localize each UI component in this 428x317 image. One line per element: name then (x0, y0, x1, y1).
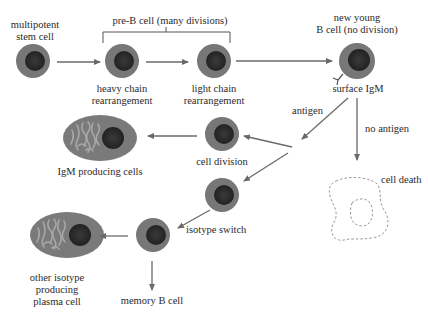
label-igm-producing-cells: IgM producing cells (55, 166, 145, 178)
label-memory-b-cell: memory B cell (117, 295, 187, 307)
pre-b-bracket (103, 27, 230, 43)
light-chain-cell (197, 44, 231, 78)
label-line: producing (22, 284, 92, 296)
igm-plasma-cell (63, 115, 137, 161)
label-no-antigen: no antigen (365, 123, 409, 135)
new-young-b-cell (333, 43, 375, 85)
label-line: heavy chain (82, 83, 162, 95)
label-heavy-chain: heavy chain rearrangement (82, 83, 162, 107)
label-line: rearrangement (174, 95, 254, 107)
isotype-switch-cell (205, 178, 239, 212)
label-line: new young (312, 12, 402, 24)
label-new-young-b-cell: new young B cell (no division) (312, 17, 402, 36)
label-other-isotype-plasma: other isotype producing plasma cell (22, 272, 92, 308)
label-line: stem cell (5, 31, 65, 43)
label-line: multipotent (5, 19, 65, 31)
label-pre-b-cell: pre-B cell (many divisions) (110, 15, 230, 27)
label-line: B cell (no division) (312, 24, 402, 36)
stem-cell (16, 44, 50, 78)
heavy-chain-cell (105, 44, 139, 78)
label-line: plasma cell (22, 296, 92, 308)
label-antigen: antigen (292, 105, 323, 117)
label-surface-igm: surface IgM (328, 83, 388, 95)
arrow-to-cell-division (244, 136, 292, 147)
cell-division-cell (205, 117, 239, 151)
label-line: light chain (174, 83, 254, 95)
dead-cell (329, 178, 388, 241)
label-light-chain: light chain rearrangement (174, 83, 254, 107)
other-isotype-plasma-cell (30, 212, 104, 258)
label-stem-cell: multipotent stem cell (5, 19, 65, 43)
label-isotype-switch: isotype switch (186, 224, 246, 236)
label-line: rearrangement (82, 95, 162, 107)
label-cell-death: cell death (381, 174, 422, 186)
label-line: other isotype (22, 272, 92, 284)
label-cell-division: cell division (187, 156, 257, 168)
memory-precursor-cell (136, 218, 170, 252)
